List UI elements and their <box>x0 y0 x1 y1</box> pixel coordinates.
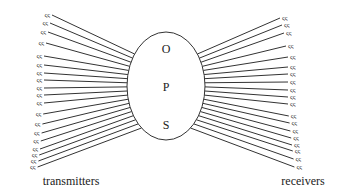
center-letter-p: P <box>163 80 170 94</box>
receiver-link <box>191 128 295 167</box>
receiver-link <box>202 107 291 131</box>
center-letter-s: S <box>163 118 170 132</box>
receiver-node-label: ςς <box>292 119 298 127</box>
receiver-link <box>199 25 282 58</box>
transmitter-link <box>44 56 129 70</box>
receiver-link <box>205 82 288 83</box>
transmitter-node-label: ςς <box>36 61 42 69</box>
receiver-nodes: ςςςςςςςςςςςςςςςςςςςςςςςςςςςςςςςςςςςςςς <box>282 14 302 171</box>
receiver-node-label: ςς <box>296 163 302 171</box>
transmitter-node-label: ςς <box>35 120 41 128</box>
transmitter-node-label: ςς <box>40 28 46 36</box>
receiver-node-label: ςς <box>290 53 296 61</box>
transmitter-node-label: ςς <box>36 110 42 118</box>
receiver-node-label: ςς <box>286 29 292 37</box>
transmitter-link <box>42 107 131 133</box>
transmitter-link <box>44 65 128 75</box>
transmitter-node-label: ςς <box>44 11 50 19</box>
receiver-link <box>194 124 294 159</box>
transmitter-node-label: ςς <box>36 91 42 99</box>
transmitter-node-label: ςς <box>36 76 42 84</box>
transmitter-node-label: ςς <box>36 52 42 60</box>
transmitter-node-label: ςς <box>33 137 39 145</box>
center-letter-o: O <box>162 42 171 56</box>
diagram-svg: ςςςςςςςςςςςςςςςςςςςςςςςςςςςςςςςςςςςςςς ς… <box>0 0 337 196</box>
transmitter-link <box>39 120 135 155</box>
receiver-link <box>200 112 291 138</box>
receiver-node-label: ςς <box>296 155 302 163</box>
receiver-node-label: ςς <box>284 21 290 29</box>
transmitter-link <box>40 116 133 149</box>
transmitter-node-label: ςς <box>36 99 42 107</box>
transmitter-node-label: ςς <box>38 39 44 47</box>
transmitter-link <box>44 91 127 95</box>
transmitter-links <box>38 15 142 167</box>
transmitter-link <box>44 87 127 88</box>
receiver-node-label: ςς <box>290 100 296 108</box>
receiver-node-label: ςς <box>288 42 294 50</box>
ops-diagram: ςςςςςςςςςςςςςςςςςςςςςςςςςςςςςςςςςςςςςς ς… <box>0 0 337 196</box>
receiver-link <box>205 87 288 90</box>
receiver-link <box>202 46 286 66</box>
receiver-link <box>205 74 288 79</box>
transmitter-node-label: ςς <box>34 129 40 137</box>
transmitter-node-label: ςς <box>30 163 36 171</box>
receiver-node-label: ςς <box>290 78 296 86</box>
transmitters-caption: transmitters <box>43 174 100 188</box>
transmitter-link <box>44 73 127 79</box>
transmitter-link <box>50 23 133 58</box>
transmitter-node-label: ςς <box>42 19 48 27</box>
receiver-node-label: ςς <box>295 147 301 155</box>
receiver-links <box>191 18 295 167</box>
transmitter-link <box>38 128 142 167</box>
receivers-caption: receivers <box>281 174 325 188</box>
receiver-link <box>201 33 284 62</box>
transmitter-nodes: ςςςςςςςςςςςςςςςςςςςςςςςςςςςςςςςςςςςςςς <box>30 11 50 171</box>
transmitter-link <box>44 80 127 83</box>
receiver-node-label: ςς <box>290 70 296 78</box>
